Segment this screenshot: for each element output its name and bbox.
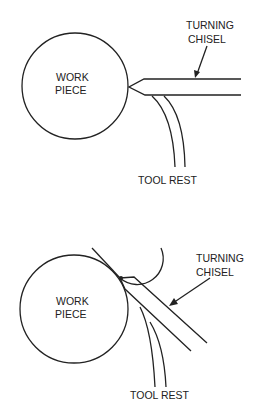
- bottom-diagram: WORK PIECE TURNING CHISEL TOOL REST: [20, 248, 244, 401]
- chisel-label-line2: CHISEL: [196, 266, 234, 278]
- shaving-curl: [120, 248, 163, 285]
- workpiece-label-line2: PIECE: [55, 84, 87, 96]
- cutting-edge-point: [119, 276, 123, 280]
- turning-chisel-lower: [120, 278, 191, 351]
- chisel-label-line1: TURNING: [186, 19, 234, 31]
- turning-chisel: [129, 79, 241, 95]
- turning-chisel-upper: [120, 277, 207, 343]
- arrowhead-icon: [194, 70, 200, 78]
- shaving-line: [92, 248, 120, 278]
- workpiece-label-line2: PIECE: [55, 308, 87, 320]
- toolrest-label: TOOL REST: [138, 174, 198, 186]
- chisel-pointer-arrow: [173, 278, 210, 303]
- top-diagram: WORK PIECE TURNING CHISEL TOOL REST: [22, 19, 241, 186]
- chisel-label-line2: CHISEL: [188, 33, 226, 45]
- lathe-turning-diagram: WORK PIECE TURNING CHISEL TOOL REST WORK…: [0, 0, 260, 415]
- tool-rest-inner: [140, 307, 155, 387]
- chisel-label-line1: TURNING: [196, 252, 244, 264]
- toolrest-label: TOOL REST: [130, 389, 190, 401]
- chisel-pointer-arrow: [197, 46, 207, 74]
- workpiece-label-line1: WORK: [56, 295, 89, 307]
- workpiece-label-line1: WORK: [56, 71, 89, 83]
- arrowhead-icon: [169, 298, 178, 306]
